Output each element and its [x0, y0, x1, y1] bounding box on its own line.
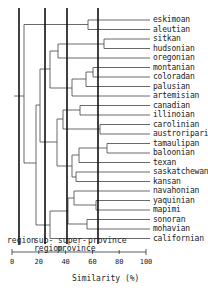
- dendrogram-branches: [14, 20, 150, 239]
- leaf-sitkan: sitkan: [153, 34, 181, 43]
- leaf-aleutian: aleutian: [153, 25, 190, 34]
- leaf-oregonian: oregonian: [153, 53, 195, 62]
- leaf-baloonian: baloonian: [153, 148, 195, 157]
- level-lines: [19, 8, 98, 244]
- tick-60: 60: [88, 258, 96, 266]
- label-region: region: [7, 237, 36, 245]
- label-superprovince-2: province: [57, 245, 96, 253]
- leaf-hudsonian: hudsonian: [153, 44, 195, 53]
- leaf-mapimi: mapimi: [153, 205, 181, 214]
- leaf-eskimoan: eskimoan: [153, 15, 190, 24]
- leaf-navahonian: navahonian: [153, 186, 199, 195]
- leaf-californian: californian: [153, 234, 204, 243]
- tick-100: 100: [140, 258, 153, 266]
- leaf-montanian: montanian: [153, 63, 195, 72]
- leaf-austroriparian: austroriparian: [153, 129, 208, 138]
- leaf-canadian: canadian: [153, 101, 190, 110]
- leaf-kansan: kansan: [153, 177, 181, 186]
- leaf-texan: texan: [153, 158, 176, 167]
- leaf-artemisian: artemisian: [153, 91, 199, 100]
- label-province: province: [88, 237, 127, 245]
- leaf-tamaulipan: tamaulipan: [153, 139, 199, 148]
- leaf-palusian: palusian: [153, 82, 190, 91]
- leaf-saskatchewan: saskatchewan: [153, 167, 208, 176]
- x-axis-label: Similarity (%): [72, 274, 139, 283]
- tick-0: 0: [10, 258, 14, 266]
- tick-40: 40: [61, 258, 69, 266]
- leaf-carolinian: carolinian: [153, 120, 199, 129]
- leaf-coloradan: coloradan: [153, 72, 195, 81]
- tick-80: 80: [115, 258, 123, 266]
- leaf-mohavian: mohavian: [153, 224, 190, 233]
- leaf-sonoran: sonoran: [153, 215, 185, 224]
- tick-20: 20: [35, 258, 43, 266]
- leaf-yaquinian: yaquinian: [153, 196, 195, 205]
- leaf-illinoian: illinoian: [153, 110, 195, 119]
